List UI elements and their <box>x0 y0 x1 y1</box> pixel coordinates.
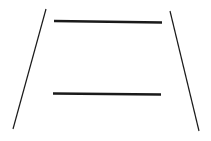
right-rail-line <box>170 11 199 131</box>
left-rail-line <box>13 9 46 129</box>
top-bar-line <box>54 21 162 23</box>
ponzo-diagram <box>0 0 211 141</box>
bottom-bar-line <box>53 94 161 95</box>
